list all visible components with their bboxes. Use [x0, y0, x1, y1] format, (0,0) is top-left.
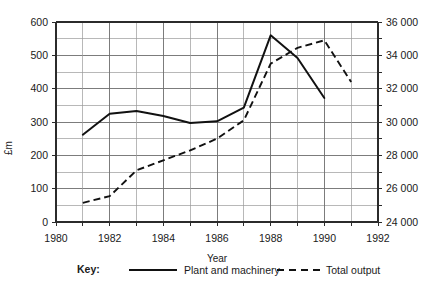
y-axis-right-tick-label: 24 000 [386, 216, 418, 228]
x-axis-title: Year [207, 253, 228, 264]
y-axis-right-tick-label: 36 000 [386, 16, 418, 28]
series-plot-and-machinery [83, 35, 324, 134]
chart-container: 0100200300400500600 24 00026 00028 00030… [0, 0, 430, 297]
line-chart: 0100200300400500600 24 00026 00028 00030… [0, 0, 430, 297]
y-axis-right-tick-label: 34 000 [386, 49, 418, 61]
x-axis-tick-label: 1986 [205, 232, 229, 244]
y-axis-title: £m [3, 141, 14, 155]
legend-label-total-output: Total output [326, 264, 380, 276]
y-axis-left-tick-label: 300 [30, 116, 48, 128]
x-axis-labels: 1980198219841986198819901992 [44, 232, 390, 244]
legend-label-plant-and-machinery: Plant and machinery [184, 264, 280, 276]
x-axis-tick-label: 1992 [366, 232, 390, 244]
y-axis-right-tick-label: 32 000 [386, 82, 418, 94]
y-axis-right-tick-label: 26 000 [386, 182, 418, 194]
y-axis-right-tick-label: 30 000 [386, 116, 418, 128]
x-axis-tick-label: 1990 [313, 232, 337, 244]
y-axis-left-tick-label: 100 [30, 182, 48, 194]
x-axis-tick-label: 1984 [152, 232, 176, 244]
y-axis-right-tick-label: 28 000 [386, 149, 418, 161]
y-axis-left-tick-label: 400 [30, 82, 48, 94]
y-axis-left-tick-label: 500 [30, 49, 48, 61]
y-axis-left-labels: 0100200300400500600 [30, 16, 48, 228]
x-axis-tick-label: 1982 [98, 232, 122, 244]
y-axis-left-tick-label: 0 [42, 216, 48, 228]
y-axis-left-tick-label: 200 [30, 149, 48, 161]
y-axis-left-tick-label: 600 [30, 16, 48, 28]
x-axis-tick-label: 1980 [44, 232, 68, 244]
chart-legend: Key: Plant and machinery Total output [77, 263, 380, 276]
x-axis-tick-label: 1988 [259, 232, 283, 244]
y-axis-right-labels: 24 00026 00028 00030 00032 00034 00036 0… [386, 16, 418, 228]
legend-title: Key: [77, 263, 100, 275]
